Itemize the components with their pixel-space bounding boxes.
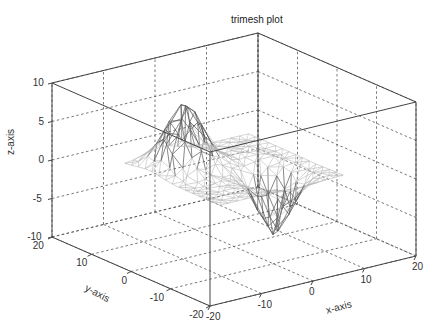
grid-lines xyxy=(52,33,416,306)
axes-box xyxy=(48,33,416,310)
x-tick-label: -10 xyxy=(258,300,272,310)
chart-title: trimesh plot xyxy=(231,15,283,25)
trimesh-plot xyxy=(0,0,444,334)
y-tick-label: 20 xyxy=(33,241,44,251)
y-tick-label: -10 xyxy=(150,293,164,303)
trimesh-surface xyxy=(125,105,343,235)
x-tick-label: 10 xyxy=(361,275,372,285)
x-tick-label: 20 xyxy=(412,262,423,272)
z-axis-label: z-axis xyxy=(6,129,16,155)
y-tick-label: 10 xyxy=(76,258,87,268)
z-tick-label: -5 xyxy=(33,194,42,204)
z-tick-label: 10 xyxy=(33,78,44,88)
y-tick-label: -20 xyxy=(189,310,203,320)
z-tick-label: 5 xyxy=(38,117,44,127)
z-tick-label: 0 xyxy=(38,155,44,165)
x-tick-label: 0 xyxy=(309,287,315,297)
x-tick-label: -20 xyxy=(206,312,220,322)
y-tick-label: 0 xyxy=(121,276,127,286)
